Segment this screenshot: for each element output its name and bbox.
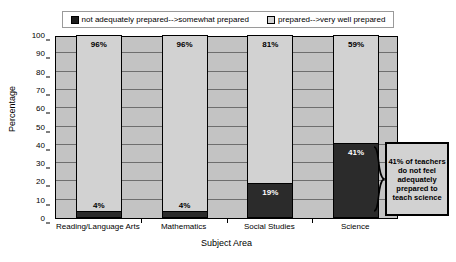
bar-segment-prepared[interactable]: 59% [333,35,379,143]
x-axis-tick-label: Social Studies [244,222,295,231]
bar-segment-not-adequately-prepared[interactable]: 19% [247,183,293,218]
bar-value-label: 41% [348,148,364,157]
x-axis-tick-mark [227,219,228,223]
legend-swatch-light-icon [267,16,275,24]
y-axis-tick-label: 10 [36,197,45,205]
x-axis-tick-label: Reading/Language Arts [56,222,140,231]
x-axis-tick-label: Mathematics [161,222,206,231]
bar-value-label: 4% [179,201,191,210]
bar-segment-not-adequately-prepared[interactable]: 4% [162,211,208,218]
y-axis-tick-mark [46,168,50,169]
y-axis-tick-mark [46,58,50,59]
curly-brace-icon [372,146,386,212]
y-axis: 1009080706050403020100 [22,30,50,225]
chart-legend: not adequately prepared-->somewhat prepa… [62,11,394,28]
annotation-callout-text: 41% of teachers do not feel adequately p… [388,157,446,202]
y-axis-tick-mark [46,113,50,114]
bar-value-label: 96% [177,40,193,49]
y-axis-tick-mark [46,223,50,224]
x-axis-title: Subject Area [55,238,398,248]
bar-value-label: 4% [93,201,105,210]
y-axis-tick-label: 0 [41,215,45,223]
bar-segment-prepared[interactable]: 96% [76,35,122,211]
bar-segment-prepared[interactable]: 96% [162,35,208,211]
legend-entry-prepared: prepared-->very well prepared [267,15,385,24]
bar-segment-not-adequately-prepared[interactable]: 4% [76,211,122,218]
legend-swatch-dark-icon [71,16,79,24]
y-axis-tick-mark [46,94,50,95]
y-axis-tick-mark [46,204,50,205]
y-axis-tick-label: 30 [36,160,45,168]
y-axis-tick-label: 70 [36,87,45,95]
bar-value-label: 96% [91,40,107,49]
bar-group[interactable]: 96%4% [76,37,122,218]
bar-value-label: 81% [262,40,278,49]
y-axis-tick-label: 60 [36,105,45,113]
bar-group[interactable]: 96%4% [162,37,208,218]
y-axis-title: Percentage [7,69,17,149]
y-axis-tick-mark [46,131,50,132]
plot-area: 96%4%96%4%81%19%59%41% [55,36,398,219]
y-axis-tick-mark [46,76,50,77]
y-axis-tick-label: 90 [36,50,45,58]
bar-group[interactable]: 81%19% [247,37,293,218]
x-axis: Reading/Language ArtsMathematicsSocial S… [55,222,398,234]
legend-label-not-adequately-prepared: not adequately prepared-->somewhat prepa… [82,15,249,24]
x-axis-tick-label: Science [341,222,369,231]
y-axis-tick-label: 40 [36,142,45,150]
x-axis-tick-mark [312,219,313,223]
bar-value-label: 59% [348,40,364,49]
y-axis-tick-label: 100 [32,32,45,40]
y-axis-tick-mark [46,186,50,187]
annotation-callout: 41% of teachers do not feel adequately p… [385,142,449,216]
y-axis-tick-mark [46,149,50,150]
x-axis-tick-mark [141,219,142,223]
bar-segment-prepared[interactable]: 81% [247,35,293,183]
bar-value-label: 19% [262,188,278,197]
legend-entry-not-adequately-prepared: not adequately prepared-->somewhat prepa… [71,15,249,24]
y-axis-tick-label: 50 [36,124,45,132]
legend-label-prepared: prepared-->very well prepared [278,15,385,24]
y-axis-tick-label: 80 [36,69,45,77]
y-axis-tick-mark [46,40,50,41]
y-axis-tick-label: 20 [36,178,45,186]
